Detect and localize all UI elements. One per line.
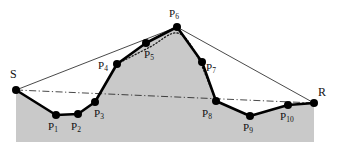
vertex-label-p2: P2 (71, 121, 81, 132)
vertex-label-p8: P8 (202, 108, 212, 119)
vertex-marker-p5 (142, 39, 150, 47)
terrain-shaded-region (16, 27, 314, 142)
terrain-fill-group (16, 27, 314, 142)
vertex-label-subscript: 3 (100, 112, 104, 121)
vertex-marker-r (310, 99, 318, 107)
vertex-label-p1: P1 (48, 121, 58, 132)
vertex-label-subscript: 5 (150, 53, 154, 62)
vertex-label-p9: P9 (243, 122, 253, 133)
vertex-label-p4: P4 (98, 60, 108, 71)
vertex-marker-s (12, 86, 20, 94)
vertex-label-p3: P3 (94, 108, 104, 119)
vertex-marker-p4 (113, 60, 121, 68)
vertex-marker-p7 (198, 58, 206, 66)
vertex-marker-p2 (74, 110, 82, 118)
vertex-label-base: S (10, 67, 17, 81)
vertex-label-subscript: 2 (77, 125, 81, 134)
vertex-marker-p3 (91, 98, 99, 106)
vertex-marker-p1 (52, 111, 60, 119)
vertex-label-subscript: 4 (104, 64, 108, 73)
vertex-label-r: R (318, 86, 326, 98)
vertex-label-subscript: 7 (212, 66, 216, 75)
vertex-label-p10: P10 (280, 111, 294, 122)
vertex-marker-p6 (173, 23, 181, 31)
vertex-label-subscript: 9 (249, 126, 253, 135)
vertex-label-subscript: 6 (175, 12, 179, 21)
vertex-label-subscript: 8 (208, 112, 212, 121)
vertex-label-base: R (318, 85, 326, 99)
vertex-label-p7: P7 (206, 62, 216, 73)
vertex-label-s: S (10, 68, 17, 80)
vertex-label-p6: P6 (169, 8, 179, 19)
vertex-label-subscript: 10 (286, 115, 294, 124)
terrain-visibility-diagram: SP1P2P3P4P5P6P7P8P9P10R (0, 0, 340, 152)
vertex-label-p5: P5 (144, 49, 154, 60)
vertex-marker-p9 (246, 112, 254, 120)
vertex-marker-p10 (284, 101, 292, 109)
vertex-marker-p8 (212, 97, 220, 105)
vertex-label-subscript: 1 (54, 125, 58, 134)
